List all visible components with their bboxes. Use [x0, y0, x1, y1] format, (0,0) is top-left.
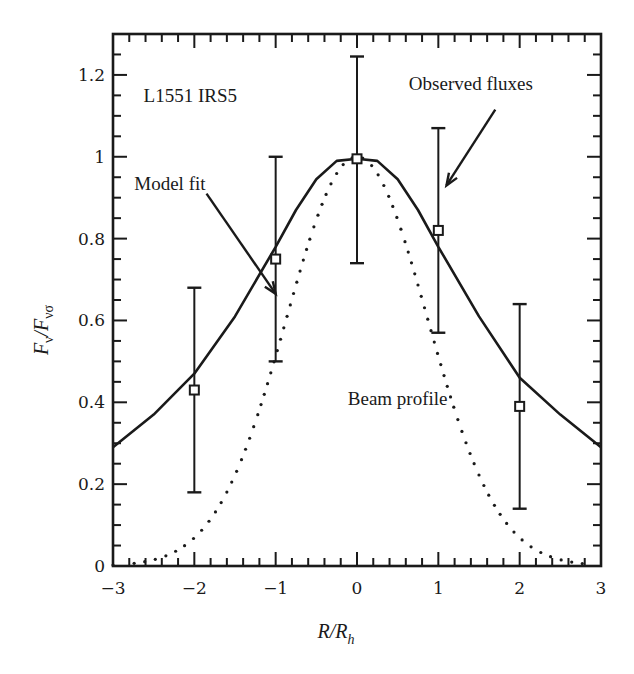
beam-dot — [200, 529, 203, 532]
beam-dot — [133, 562, 136, 565]
x-axis-title: R/Rh — [317, 620, 355, 647]
beam-dot — [529, 545, 532, 548]
annotation-model-fit: Model fit — [134, 173, 206, 194]
beam-dot — [263, 393, 266, 396]
beam-dot — [468, 452, 471, 455]
y-tick-label: 0.2 — [78, 474, 105, 494]
beam-dot — [477, 473, 480, 476]
beam-dot — [329, 182, 332, 185]
beam-dot — [192, 537, 195, 540]
beam-dot — [539, 551, 542, 554]
beam-dot — [521, 538, 524, 541]
tick-labels: −3−2−1012300.20.40.60.811.2 — [78, 65, 606, 598]
square-marker — [353, 154, 362, 163]
beam-dot — [391, 205, 394, 208]
beam-dot — [395, 216, 398, 219]
beam-dot — [324, 193, 327, 196]
beam-dot — [225, 490, 228, 493]
beam-dot — [370, 164, 373, 167]
observed-point — [187, 288, 201, 493]
beam-dot — [342, 163, 345, 166]
annotation-source: L1551 IRS5 — [144, 85, 237, 106]
y-tick-label: 0.8 — [78, 229, 105, 249]
observed-point — [431, 128, 445, 333]
arrow-shaft — [446, 110, 495, 186]
beam-dot — [439, 363, 442, 366]
beam-dot — [452, 406, 455, 409]
arrow-shaft — [207, 194, 276, 294]
beam-dot — [436, 352, 439, 355]
beam-dot — [259, 403, 262, 406]
x-tick-label: −2 — [182, 578, 207, 598]
y-axis-title-sub2: νσ — [41, 304, 56, 318]
y-axis-title-main: F — [30, 342, 52, 356]
beam-dot — [581, 562, 584, 565]
beam-dot — [282, 326, 285, 329]
beam-dot — [244, 448, 247, 451]
beam-dot — [549, 555, 552, 558]
beam-dot — [399, 228, 402, 231]
beam-dot — [256, 413, 259, 416]
y-axis-title: Fν/Fνσ — [30, 304, 56, 356]
x-tick-label: 1 — [433, 578, 444, 598]
y-tick-label: 1.2 — [78, 65, 105, 85]
beam-dot — [387, 195, 390, 198]
beam-dot — [377, 173, 380, 176]
x-tick-label: −3 — [100, 578, 125, 598]
beam-dot — [235, 470, 238, 473]
beam-dot — [289, 303, 292, 306]
x-axis-title-main: R/R — [317, 620, 348, 642]
square-marker — [271, 255, 280, 264]
beam-dot — [320, 203, 323, 206]
beam-dot — [285, 315, 288, 318]
beam-dot — [407, 251, 410, 254]
beam-dot — [560, 558, 563, 561]
beam-dot — [512, 530, 515, 533]
beam-dot — [279, 338, 282, 341]
beam-dot — [214, 510, 217, 513]
x-tick-label: 3 — [596, 578, 607, 598]
square-marker — [515, 402, 524, 411]
beam-dot — [248, 437, 251, 440]
beam-dot — [473, 462, 476, 465]
beam-dot — [460, 430, 463, 433]
beam-dot — [308, 238, 311, 241]
beam-dot — [312, 225, 315, 228]
beam-dot — [410, 261, 413, 264]
chart: −3−2−1012300.20.40.60.811.2 L1551 IRS5 M… — [0, 0, 634, 674]
y-axis-title-slash: /F — [30, 318, 52, 338]
beam-dot — [464, 441, 467, 444]
x-tick-label: 2 — [514, 578, 525, 598]
beam-dot — [505, 522, 508, 525]
observed-point — [350, 57, 364, 264]
beam-dot — [154, 558, 157, 561]
beam-dot — [302, 259, 305, 262]
beam-dot — [240, 458, 243, 461]
annotation-beam-profile: Beam profile — [348, 388, 448, 409]
square-marker — [434, 226, 443, 235]
y-tick-label: 0 — [94, 556, 105, 576]
observed-point — [513, 304, 527, 509]
x-axis-title-subscript: h — [348, 632, 355, 647]
beam-dot — [426, 318, 429, 321]
beam-dot — [416, 283, 419, 286]
x-tick-label: 0 — [352, 578, 363, 598]
beam-dot — [252, 425, 255, 428]
beam-dot — [487, 494, 490, 497]
beam-dot — [230, 481, 233, 484]
beam-dot — [413, 272, 416, 275]
beam-dot — [305, 248, 308, 251]
beam-dot — [292, 292, 295, 295]
beam-dot — [456, 418, 459, 421]
beam-dot — [298, 269, 301, 272]
beam-dot — [382, 184, 385, 187]
beam-dot — [143, 560, 146, 563]
beam-dot — [433, 341, 436, 344]
y-tick-label: 1 — [94, 147, 105, 167]
beam-dot — [482, 484, 485, 487]
annotation-observed-fluxes: Observed fluxes — [409, 73, 533, 94]
beam-dot — [269, 371, 272, 374]
x-tick-label: −1 — [263, 578, 288, 598]
beam-dot — [423, 306, 426, 309]
beam-dot — [220, 501, 223, 504]
